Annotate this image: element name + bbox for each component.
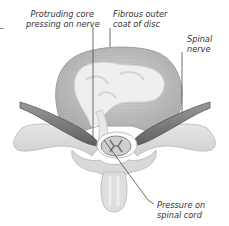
label-fibrous-coat: Fibrous outer coat of disc <box>113 9 167 29</box>
label-fibrous-coat-line1: Fibrous outer <box>113 9 167 19</box>
label-protruding-core-line1: Protruding core <box>26 9 94 19</box>
label-pressure-line1: Pressure on <box>157 200 205 210</box>
label-pressure-spinal-cord: Pressure on spinal cord <box>157 200 205 220</box>
spinous-process <box>101 172 127 212</box>
label-spinal-nerve-line1: Spinal <box>187 34 212 44</box>
label-pressure-line2: spinal cord <box>157 210 205 220</box>
label-spinal-nerve: Spinal nerve <box>187 34 212 54</box>
label-protruding-core-line2: pressing on nerve <box>26 19 94 29</box>
left-edge-tick <box>0 28 4 29</box>
label-protruding-core: Protruding core pressing on nerve <box>26 9 94 29</box>
herniated-disc-diagram: Protruding core pressing on nerve Fibrou… <box>0 0 229 226</box>
label-fibrous-coat-line2: coat of disc <box>113 19 167 29</box>
label-spinal-nerve-line2: nerve <box>187 44 212 54</box>
